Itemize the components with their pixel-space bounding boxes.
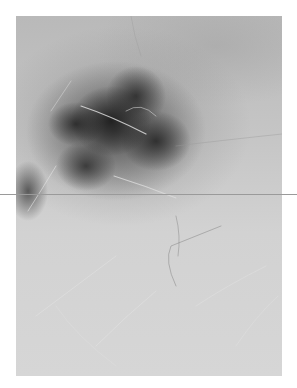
horizontal-guide-line [0,194,297,195]
hair-strands [16,16,282,376]
